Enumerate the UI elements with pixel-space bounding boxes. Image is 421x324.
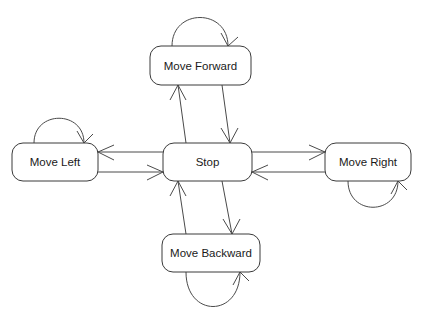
state-node-move-forward[interactable]: Move Forward [150, 46, 251, 85]
transition-stop-to-move-right [252, 145, 325, 160]
transition-stop-to-move-left [98, 145, 163, 160]
self-loop-move-left [34, 118, 93, 143]
state-label-move-forward: Move Forward [164, 60, 238, 72]
self-loop-move-forward [172, 18, 238, 47]
state-diagram: Move Forward Move Left Stop Move Right M… [0, 0, 421, 324]
state-node-stop[interactable]: Stop [163, 143, 252, 181]
transition-move-backward-to-stop [170, 181, 186, 234]
state-label-move-right: Move Right [339, 156, 398, 168]
transition-move-forward-to-stop [221, 85, 238, 143]
state-diagram-canvas: Move Forward Move Left Stop Move Right M… [0, 0, 421, 324]
state-label-stop: Stop [196, 156, 220, 168]
state-node-move-left[interactable]: Move Left [12, 143, 98, 181]
state-label-move-left: Move Left [30, 156, 81, 168]
state-node-move-right[interactable]: Move Right [325, 143, 411, 181]
transition-stop-to-move-forward [170, 85, 186, 143]
state-node-move-backward[interactable]: Move Backward [162, 234, 260, 272]
transition-move-left-to-stop [98, 165, 163, 180]
self-loop-move-backward [186, 272, 249, 307]
transition-stop-to-move-backward [222, 181, 240, 234]
self-loop-move-right [348, 181, 407, 207]
state-label-move-backward: Move Backward [170, 247, 252, 259]
transition-move-right-to-stop [252, 165, 325, 180]
